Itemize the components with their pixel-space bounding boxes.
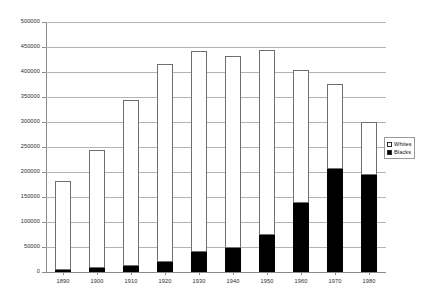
x-tick-mark xyxy=(63,272,64,275)
x-tick-mark xyxy=(199,272,200,275)
x-tick-mark xyxy=(97,272,98,275)
bar-segment-whites[interactable] xyxy=(225,56,241,248)
bar-segment-whites[interactable] xyxy=(259,50,275,235)
y-tick: 100000 xyxy=(0,218,40,226)
legend-label-whites: Whites xyxy=(394,140,412,148)
y-tick: 0 xyxy=(0,268,40,276)
bar-segment-whites[interactable] xyxy=(55,181,71,270)
bar-group[interactable] xyxy=(361,122,377,273)
x-tick-label: 1980 xyxy=(349,278,389,284)
bar-group[interactable] xyxy=(225,56,241,272)
legend-item-whites: Whites xyxy=(387,140,412,148)
bar-segment-blacks[interactable] xyxy=(259,235,275,272)
y-tick: 250000 xyxy=(0,143,40,151)
bar-segment-whites[interactable] xyxy=(327,84,343,169)
x-tick-mark xyxy=(301,272,302,275)
x-tick-mark xyxy=(165,272,166,275)
y-tick: 350000 xyxy=(0,93,40,101)
y-tick-label: 300000 xyxy=(0,118,40,124)
bar-segment-blacks[interactable] xyxy=(293,203,309,272)
y-tick: 150000 xyxy=(0,193,40,201)
y-tick-label: 100000 xyxy=(0,218,40,224)
stacked-bar-chart: 0500001000001500002000002500003000003500… xyxy=(0,0,428,297)
legend-swatch-blacks-icon xyxy=(387,150,392,155)
bar-segment-blacks[interactable] xyxy=(225,248,241,272)
y-tick-label: 150000 xyxy=(0,193,40,199)
y-tick-label: 450000 xyxy=(0,43,40,49)
y-tick: 200000 xyxy=(0,168,40,176)
plot-area xyxy=(46,22,386,272)
bar-segment-whites[interactable] xyxy=(123,100,139,266)
y-tick: 450000 xyxy=(0,43,40,51)
bar-group[interactable] xyxy=(327,84,343,273)
bar-group[interactable] xyxy=(89,150,105,273)
y-tick-label: 50000 xyxy=(0,243,40,249)
bar-segment-blacks[interactable] xyxy=(191,252,207,273)
gridline xyxy=(46,47,386,48)
gridline xyxy=(46,72,386,73)
x-tick-mark xyxy=(369,272,370,275)
bar-segment-blacks[interactable] xyxy=(327,169,343,273)
bar-group[interactable] xyxy=(55,181,71,272)
y-tick: 500000 xyxy=(0,18,40,26)
y-tick-label: 400000 xyxy=(0,68,40,74)
x-tick-mark xyxy=(233,272,234,275)
y-tick-label: 200000 xyxy=(0,168,40,174)
chart-legend: Whites Blacks xyxy=(384,137,415,159)
gridline xyxy=(46,22,386,23)
y-tick: 50000 xyxy=(0,243,40,251)
bar-segment-whites[interactable] xyxy=(157,64,173,262)
y-tick-label: 500000 xyxy=(0,18,40,24)
y-tick-label: 0 xyxy=(0,268,40,274)
legend-label-blacks: Blacks xyxy=(394,148,411,156)
bar-group[interactable] xyxy=(123,100,139,273)
legend-swatch-whites-icon xyxy=(387,142,392,147)
legend-item-blacks: Blacks xyxy=(387,148,412,156)
bar-segment-whites[interactable] xyxy=(191,51,207,252)
bar-segment-whites[interactable] xyxy=(89,150,105,268)
y-tick: 400000 xyxy=(0,68,40,76)
bar-group[interactable] xyxy=(157,64,173,272)
x-tick-mark xyxy=(267,272,268,275)
y-tick-label: 250000 xyxy=(0,143,40,149)
x-tick-mark xyxy=(131,272,132,275)
y-tick-label: 350000 xyxy=(0,93,40,99)
bar-group[interactable] xyxy=(259,50,275,272)
x-tick-mark xyxy=(335,272,336,275)
y-tick: 300000 xyxy=(0,118,40,126)
bar-segment-whites[interactable] xyxy=(293,70,309,204)
bar-segment-whites[interactable] xyxy=(361,122,377,176)
bar-segment-blacks[interactable] xyxy=(361,175,377,272)
bar-group[interactable] xyxy=(293,70,309,273)
bar-segment-blacks[interactable] xyxy=(157,262,173,272)
bar-group[interactable] xyxy=(191,51,207,273)
